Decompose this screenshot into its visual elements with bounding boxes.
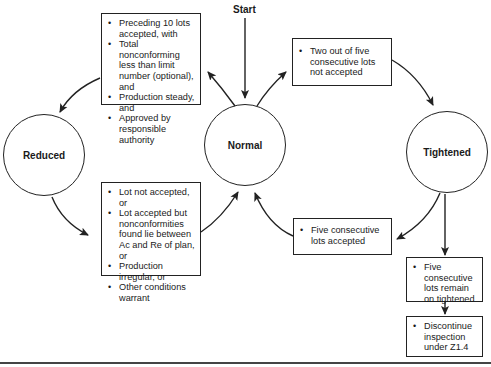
state-tightened: Tightened (406, 111, 488, 193)
condition-item: Preceding 10 lots accepted, with (107, 18, 196, 39)
condition-item: Discontinue inspection under Z1.4 (412, 321, 478, 353)
condition-item: Production irregular, or (107, 261, 196, 282)
state-reduced: Reduced (3, 114, 85, 196)
normal-to-reduced-arrow-b (60, 78, 100, 112)
normal-to-reduced-arrow-a (208, 72, 235, 106)
state-normal: Normal (204, 104, 286, 186)
tightened-to-normal-conditions: Five consecutive lots accepted (293, 218, 392, 255)
state-tightened-label: Tightened (423, 147, 471, 158)
condition-item: Total nonconforming less than limit numb… (107, 39, 196, 92)
condition-item: Production steady, and (107, 92, 196, 113)
discontinue-box: Discontinue inspection under Z1.4 (406, 316, 483, 357)
tightened-to-normal-arrow-b (255, 193, 293, 236)
condition-item: Lot accepted but nonconformities found l… (107, 208, 196, 261)
normal-to-tightened-arrow-a (257, 72, 286, 106)
reduced-to-normal-conditions: Lot not accepted, or Lot accepted but no… (101, 182, 201, 276)
reduced-to-normal-arrow-a (52, 197, 88, 235)
condition-item: Five consecutive lots accepted (299, 225, 387, 246)
condition-item: Approved by responsible authority (107, 113, 196, 145)
tightened-remain-conditions: Five consecutive lots remain on tightene… (406, 257, 483, 302)
reduced-to-normal-arrow-b (201, 192, 238, 232)
condition-item: Lot not accepted, or (107, 187, 196, 208)
normal-to-tightened-conditions: Two out of five consecutive lots not acc… (292, 38, 392, 86)
condition-item: Two out of five consecutive lots not acc… (298, 46, 387, 78)
condition-item: Other conditions warrant (107, 282, 196, 303)
tightened-to-normal-arrow-a (397, 193, 440, 239)
state-normal-label: Normal (228, 140, 262, 151)
normal-to-reduced-conditions: Preceding 10 lots accepted, with Total n… (101, 13, 201, 105)
condition-item: Five consecutive lots remain on tightene… (412, 262, 478, 304)
state-reduced-label: Reduced (23, 150, 65, 161)
normal-to-tightened-arrow-b (392, 60, 433, 105)
start-label: Start (233, 4, 256, 15)
bottom-divider (0, 362, 491, 364)
